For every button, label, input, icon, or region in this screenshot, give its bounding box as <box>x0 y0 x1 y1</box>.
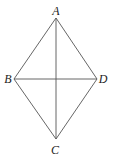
edge-bc <box>14 79 56 139</box>
vertex-label-c: C <box>51 143 60 157</box>
edge-da <box>56 18 97 79</box>
edge-cd <box>56 79 97 139</box>
vertex-label-b: B <box>4 72 12 86</box>
vertex-label-d: D <box>98 72 108 86</box>
edge-ab <box>14 18 56 79</box>
vertex-label-a: A <box>51 4 60 18</box>
rhombus-diagram: A B C D <box>0 0 114 158</box>
